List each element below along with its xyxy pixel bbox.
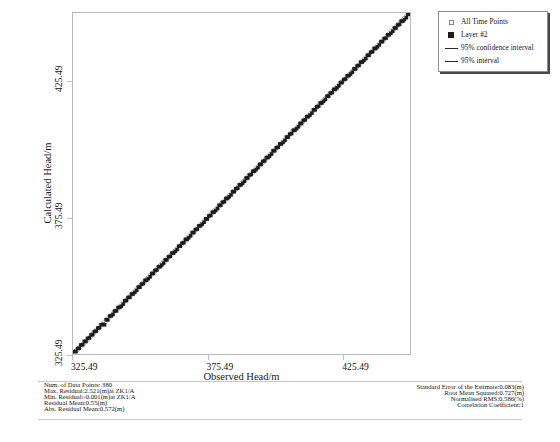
x-axis-tick xyxy=(72,355,73,360)
y-axis-tick-label: 375.49 xyxy=(54,202,64,229)
legend-item-layer-2[interactable]: Layer #2 xyxy=(444,29,543,41)
legend-item-confidence-interval[interactable]: 95% confidence interval xyxy=(444,42,543,54)
y-axis-tick xyxy=(67,81,72,82)
y-axis-tick-label: 325.49 xyxy=(54,339,64,366)
stat-abs-residual-mean: Abs. Residual Mean:0.572(m) xyxy=(44,406,135,412)
legend-item-interval[interactable]: 95% interval xyxy=(444,55,543,67)
y-axis-tick-label: 425.49 xyxy=(54,65,64,92)
scatter-plot-svg xyxy=(73,13,410,354)
x-axis-tick xyxy=(343,355,344,360)
footer-divider-bottom xyxy=(38,419,522,420)
statistics-right: Standard Error of the Estimate:0.083(m) … xyxy=(416,384,524,408)
stat-correlation-coefficient: Correlation Coefficient:1 xyxy=(416,402,524,408)
y-axis-tick xyxy=(67,355,72,356)
line-icon xyxy=(444,61,458,62)
plot-area xyxy=(72,12,411,355)
y-axis-tick xyxy=(67,218,72,219)
legend-item-label: All Time Points xyxy=(461,18,508,26)
chart-legend[interactable]: All Time Points Layer #2 95% confidence … xyxy=(438,11,548,72)
line-icon xyxy=(444,48,458,49)
filled-square-icon xyxy=(444,32,458,38)
legend-item-label: 95% confidence interval xyxy=(461,44,533,52)
legend-item-label: Layer #2 xyxy=(461,31,488,39)
x-axis-tick xyxy=(208,355,209,360)
legend-item-all-time-points[interactable]: All Time Points xyxy=(444,16,543,28)
legend-item-label: 95% interval xyxy=(461,57,499,65)
y-axis-title: Calculated Head/m xyxy=(42,143,53,224)
statistics-left: Num. of Data Points: 380 Max. Residual:2… xyxy=(44,382,135,412)
chart-canvas: 325.49375.49425.49325.49375.49425.49 Obs… xyxy=(0,0,560,442)
open-square-icon xyxy=(444,20,458,25)
